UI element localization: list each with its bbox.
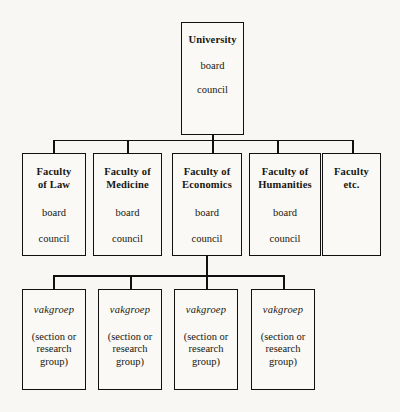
node-faculty-law-line-board: board — [42, 207, 66, 220]
node-faculty-economics-line-board: board — [195, 207, 219, 220]
node-faculty-humanities-title: Faculty of Humanities — [258, 166, 311, 191]
node-vakgroep-4-description: (section or research group) — [261, 331, 306, 369]
node-vakgroep-2-description: (section or research group) — [108, 331, 153, 369]
connector-economics-stem — [206, 256, 208, 276]
node-faculty-medicine[interactable]: Faculty of Medicine board council — [93, 153, 162, 256]
node-vakgroep-2-title: vakgroep — [110, 304, 150, 317]
node-university-line-council: council — [197, 84, 228, 97]
node-faculty-economics[interactable]: Faculty of Economics board council — [172, 153, 242, 256]
connector-faculty-bus — [53, 140, 353, 142]
connector-drop-vakgroep-4 — [283, 275, 285, 289]
node-faculty-law-title: Faculty of Law — [37, 166, 72, 191]
node-university-title: University — [188, 34, 236, 47]
node-faculty-economics-title: Faculty of Economics — [182, 166, 232, 191]
node-vakgroep-3[interactable]: vakgroep (section or research group) — [174, 289, 238, 390]
node-vakgroep-1[interactable]: vakgroep (section or research group) — [22, 289, 86, 390]
node-vakgroep-1-title: vakgroep — [34, 304, 74, 317]
node-university-line-board: board — [201, 60, 225, 73]
connector-drop-faculty-1 — [53, 140, 55, 154]
node-faculty-etc-title: Faculty etc. — [334, 166, 369, 191]
connector-drop-vakgroep-1 — [53, 275, 55, 289]
node-faculty-humanities[interactable]: Faculty of Humanities board council — [249, 153, 321, 256]
node-vakgroep-4[interactable]: vakgroep (section or research group) — [251, 289, 315, 390]
node-faculty-medicine-line-board: board — [116, 207, 140, 220]
connector-drop-faculty-3 — [212, 140, 214, 154]
connector-drop-faculty-5 — [352, 140, 354, 154]
node-university[interactable]: University board council — [181, 22, 244, 135]
connector-drop-vakgroep-2 — [130, 275, 132, 289]
node-faculty-medicine-line-council: council — [112, 233, 143, 246]
org-chart: University board council Faculty of Law … — [0, 0, 400, 412]
node-vakgroep-1-description: (section or research group) — [32, 331, 77, 369]
node-faculty-humanities-line-board: board — [273, 207, 297, 220]
node-faculty-humanities-line-council: council — [270, 233, 301, 246]
connector-drop-vakgroep-3 — [206, 275, 208, 289]
node-vakgroep-4-title: vakgroep — [263, 304, 303, 317]
connector-drop-faculty-4 — [277, 140, 279, 154]
connector-drop-faculty-2 — [127, 140, 129, 154]
node-faculty-economics-line-council: council — [192, 233, 223, 246]
node-faculty-law-line-council: council — [39, 233, 70, 246]
node-vakgroep-3-description: (section or research group) — [184, 331, 229, 369]
node-faculty-etc[interactable]: Faculty etc. — [322, 153, 381, 256]
connector-vakgroep-bus — [53, 275, 284, 277]
node-faculty-medicine-title: Faculty of Medicine — [104, 166, 151, 191]
node-vakgroep-3-title: vakgroep — [186, 304, 226, 317]
node-vakgroep-2[interactable]: vakgroep (section or research group) — [98, 289, 162, 390]
node-faculty-law[interactable]: Faculty of Law board council — [22, 153, 86, 256]
